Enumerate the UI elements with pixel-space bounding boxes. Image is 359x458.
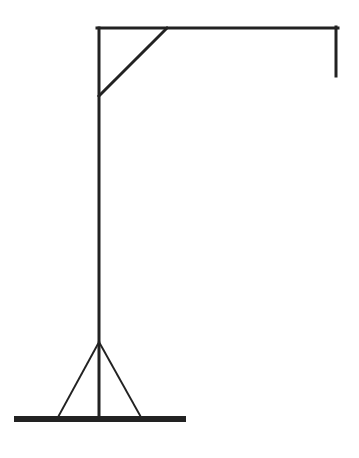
gallows-base — [14, 416, 186, 422]
gallows-brace — [99, 28, 167, 96]
gallows-support-right — [99, 342, 142, 419]
gallows-support-left — [57, 342, 99, 419]
gallows-diagram — [0, 0, 359, 458]
